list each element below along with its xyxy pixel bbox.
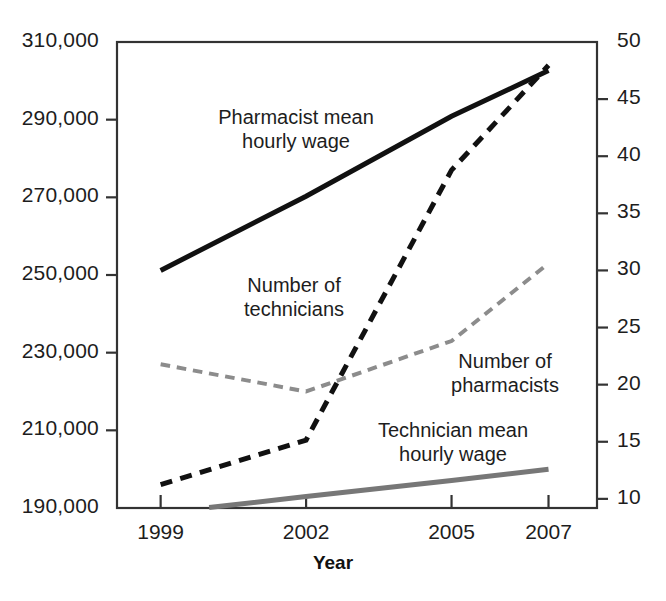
left-axis-tick-label: 210,000 (0, 416, 99, 440)
left-axis-tick-label: 190,000 (0, 494, 99, 518)
annotation-line-1: Number of (214, 274, 374, 298)
right-axis-tick-label: 35 (617, 199, 641, 223)
right-axis-tick-label: 20 (617, 371, 641, 395)
right-axis-tick-label: 45 (617, 85, 641, 109)
annotation-line-2: pharmacists (430, 374, 580, 398)
annotation-line-2: technicians (214, 298, 374, 322)
annotation-line-1: Technician mean (358, 419, 548, 443)
right-axis-tick-label: 15 (617, 428, 641, 452)
x-axis-tick-label: 2005 (402, 520, 502, 544)
right-axis-ticks (597, 99, 608, 499)
left-axis-tick-label: 250,000 (0, 261, 99, 285)
right-axis-tick-label: 10 (617, 485, 641, 509)
x-axis-tick-label: 1999 (111, 520, 211, 544)
right-axis-tick-label: 40 (617, 142, 641, 166)
left-axis-tick-label: 310,000 (0, 28, 99, 52)
series-annotation-pharmacist-mean-hourly-wage: Pharmacist mean hourly wage (196, 106, 396, 153)
annotation-line-1: Number of (430, 350, 580, 374)
right-axis-tick-label: 30 (617, 256, 641, 280)
right-axis-tick-label: 25 (617, 314, 641, 338)
left-axis-tick-label: 290,000 (0, 106, 99, 130)
series-annotation-technician-mean-hourly-wage: Technician mean hourly wage (358, 419, 548, 466)
annotation-line-2: hourly wage (196, 130, 396, 154)
annotation-line-1: Pharmacist mean (196, 106, 396, 130)
series-annotation-number-of-pharmacists: Number of pharmacists (430, 350, 580, 397)
left-axis-tick-label: 270,000 (0, 183, 99, 207)
chart-figure: 190,000210,000230,000250,000270,000290,0… (0, 0, 666, 601)
x-axis-tick-label: 2007 (499, 520, 599, 544)
right-axis-tick-label: 50 (617, 28, 641, 52)
x-axis-tick-label: 2002 (256, 520, 356, 544)
series-annotation-number-of-technicians: Number of technicians (214, 274, 374, 321)
x-axis-title: Year (0, 552, 666, 574)
left-axis-tick-label: 230,000 (0, 339, 99, 363)
left-axis-ticks (106, 120, 117, 431)
annotation-line-2: hourly wage (358, 443, 548, 467)
